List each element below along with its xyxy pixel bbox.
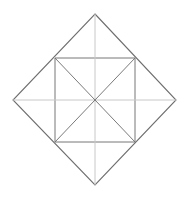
geometric-figure: Diamond Pinwheel Geometric Figure A rota… — [0, 0, 188, 199]
